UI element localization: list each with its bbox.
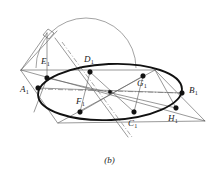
generatrix-left-inner-line bbox=[21, 31, 57, 70]
point-label-E1: E1 bbox=[41, 57, 50, 66]
point-dot-center bbox=[108, 90, 112, 94]
chord-D1-C1 bbox=[90, 72, 134, 112]
point-label-H1: H1 bbox=[168, 114, 178, 123]
figure-caption: (b) bbox=[0, 155, 219, 165]
point-label-C1: C1 bbox=[128, 119, 137, 128]
point-label-A1: A1 bbox=[20, 85, 29, 94]
point-label-F1: F1 bbox=[76, 97, 85, 106]
geometry-figure: A1 B1 C1 D1 E1 F1 G1 H1 (b) bbox=[0, 0, 219, 175]
point-dot-H1 bbox=[174, 106, 179, 111]
point-dot-B1 bbox=[180, 91, 185, 96]
point-dot-D1 bbox=[88, 70, 93, 75]
point-label-B1: B1 bbox=[189, 86, 198, 95]
point-dot-E1 bbox=[45, 76, 50, 81]
figure-canvas bbox=[0, 0, 219, 175]
point-dot-F1 bbox=[78, 110, 83, 115]
point-dot-C1 bbox=[132, 110, 137, 115]
point-dot-A1 bbox=[36, 86, 41, 91]
right-angle-marker bbox=[43, 29, 54, 39]
point-label-G1: G1 bbox=[137, 79, 147, 88]
chord-F1-G1 bbox=[80, 76, 143, 112]
point-label-D1: D1 bbox=[84, 55, 94, 64]
